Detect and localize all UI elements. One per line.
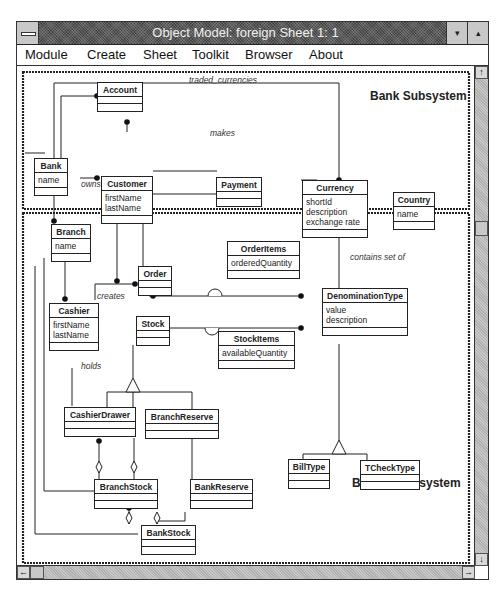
attribute: firstName — [105, 193, 149, 203]
diagram-canvas[interactable]: traded_currencies makes owns pays contai… — [17, 66, 475, 566]
class-branchstock[interactable]: BranchStock — [94, 479, 158, 509]
horizontal-scroll-thumb[interactable] — [30, 566, 44, 579]
label-creates: creates — [97, 291, 125, 301]
title-bar[interactable]: Object Model: foreign Sheet 1: 1 ▾ ▴ — [17, 22, 488, 45]
menu-browser[interactable]: Browser — [245, 47, 293, 62]
class-stockitems[interactable]: StockItems availableQuantity — [218, 331, 295, 369]
class-name: Payment — [217, 178, 261, 192]
system-menu-button[interactable] — [17, 22, 39, 44]
attribute: firstName — [53, 320, 95, 330]
menu-create[interactable]: Create — [87, 47, 126, 62]
class-customer[interactable]: Customer firstNamelastName — [101, 176, 153, 224]
class-name: BankReserve — [191, 480, 252, 494]
class-name: CashierDrawer — [65, 408, 135, 422]
class-country[interactable]: Country name — [393, 192, 435, 230]
class-name: Country — [394, 193, 434, 207]
class-branchreserve[interactable]: BranchReserve — [145, 409, 219, 439]
scroll-left-button[interactable]: ← — [17, 566, 30, 579]
class-name: Account — [98, 83, 142, 97]
scroll-right-button[interactable]: → — [462, 566, 475, 579]
attribute: name — [397, 209, 431, 219]
class-name: Cashier — [50, 304, 98, 318]
class-name: Order — [139, 267, 171, 281]
class-denominationtype[interactable]: DenominationType valuedescription — [322, 288, 408, 336]
class-name: StockItems — [219, 332, 294, 346]
class-name: DenominationType — [323, 289, 407, 303]
object-model-window: Object Model: foreign Sheet 1: 1 ▾ ▴ Mod… — [16, 21, 489, 580]
system-menu-icon — [21, 32, 36, 36]
class-orderitems[interactable]: OrderItems orderedQuantity — [227, 241, 300, 279]
menu-toolkit[interactable]: Toolkit — [192, 47, 229, 62]
maximize-button[interactable]: ▴ — [467, 22, 488, 44]
vertical-scroll-thumb[interactable] — [475, 221, 488, 236]
attribute: description — [326, 315, 404, 325]
class-bank[interactable]: Bank name — [34, 158, 68, 196]
class-bankreserve[interactable]: BankReserve — [190, 479, 253, 509]
label-contains-set-of: contains set of — [350, 252, 405, 262]
menu-bar: Module Create Sheet Toolkit Browser Abou… — [17, 45, 488, 66]
class-bankstock[interactable]: BankStock — [141, 525, 196, 555]
label-traded-currencies: traded_currencies — [189, 75, 257, 85]
class-tchecktype[interactable]: TCheckType — [360, 460, 420, 490]
attribute: exchange rate — [306, 217, 364, 227]
label-makes: makes — [210, 128, 235, 138]
class-name: Bank — [35, 159, 67, 173]
scroll-down-button[interactable]: ↓ — [475, 553, 488, 566]
class-name: TCheckType — [361, 461, 419, 475]
class-branch[interactable]: Branch name — [51, 224, 91, 262]
window-title: Object Model: foreign Sheet 1: 1 — [47, 25, 444, 40]
attribute: orderedQuantity — [231, 258, 296, 268]
attribute: description — [306, 207, 364, 217]
menu-module[interactable]: Module — [25, 47, 68, 62]
class-account[interactable]: Account — [97, 82, 143, 112]
class-payment[interactable]: Payment — [216, 177, 262, 207]
class-name: BranchReserve — [146, 410, 218, 424]
scroll-up-button[interactable]: ↑ — [475, 66, 488, 79]
class-stock[interactable]: Stock — [136, 316, 170, 346]
class-name: Branch — [52, 225, 90, 239]
attribute: value — [326, 305, 404, 315]
attribute: shortId — [306, 197, 364, 207]
class-name: Currency — [303, 181, 367, 195]
class-name: OrderItems — [228, 242, 299, 256]
class-name: BankStock — [142, 526, 195, 540]
menu-sheet[interactable]: Sheet — [143, 47, 177, 62]
attribute: availableQuantity — [222, 348, 291, 358]
horizontal-scrollbar[interactable]: ← → — [17, 565, 475, 579]
menu-about[interactable]: About — [309, 47, 343, 62]
attribute: name — [38, 175, 64, 185]
class-billtype[interactable]: BillType — [288, 459, 330, 489]
class-cashier[interactable]: Cashier firstNamelastName — [49, 303, 99, 351]
class-name: BranchStock — [95, 480, 157, 494]
class-name: Stock — [137, 317, 169, 331]
label-owns: owns — [81, 179, 101, 189]
class-currency[interactable]: Currency shortIddescriptionexchange rate — [302, 180, 368, 238]
label-holds: holds — [81, 361, 101, 371]
attribute: name — [55, 241, 87, 251]
class-cashierdrawer[interactable]: CashierDrawer — [64, 407, 136, 437]
class-name: Customer — [102, 177, 152, 191]
class-order[interactable]: Order — [138, 266, 172, 296]
attribute: lastName — [53, 330, 95, 340]
attribute: lastName — [105, 203, 149, 213]
minimize-button[interactable]: ▾ — [446, 22, 467, 44]
bank-subsystem-label: Bank Subsystem — [370, 89, 467, 103]
class-name: BillType — [289, 460, 329, 474]
vertical-scrollbar[interactable]: ↑ ↓ — [474, 66, 488, 566]
